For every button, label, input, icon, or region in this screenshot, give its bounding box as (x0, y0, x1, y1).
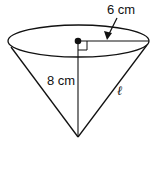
center-point (75, 38, 82, 45)
cone-diagram: 6 cm 8 cm ℓ (0, 0, 167, 177)
radius-arrowhead (104, 31, 112, 40)
cone-right-side (78, 45, 147, 137)
height-label: 8 cm (47, 73, 75, 88)
slant-height-label: ℓ (117, 83, 123, 98)
radius-label: 6 cm (107, 2, 135, 17)
cone-left-side (11, 47, 78, 137)
